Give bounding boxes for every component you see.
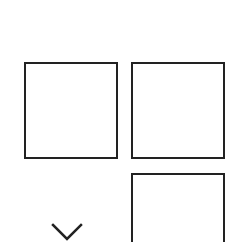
- tile-top-left[interactable]: [24, 62, 118, 159]
- grid-layout-panel: [0, 0, 236, 242]
- tile-top-right[interactable]: [131, 62, 225, 159]
- tile-bottom-right[interactable]: [131, 173, 225, 242]
- chevron-down-icon[interactable]: [50, 222, 84, 242]
